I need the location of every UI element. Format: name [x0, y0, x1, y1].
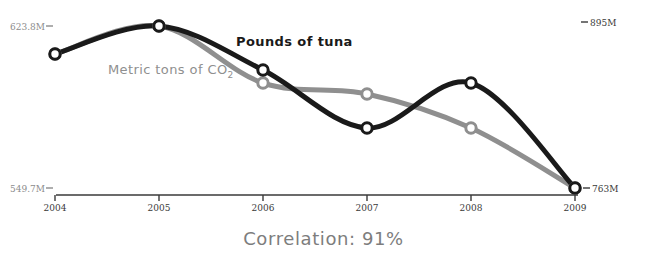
- data-point-marker: [466, 123, 476, 133]
- x-axis-ticks: [55, 195, 575, 201]
- x-axis-tick-label: 2006: [252, 203, 275, 213]
- series-line-pounds-of-tuna: [55, 26, 575, 188]
- right-axis-min-label: 763M: [592, 184, 618, 194]
- data-point-marker: [258, 78, 268, 88]
- series-annotation-metric-tons-co2-text: Metric tons of CO: [108, 62, 228, 77]
- right-axis-max-label: 895M: [590, 18, 616, 28]
- data-point-marker: [570, 183, 580, 193]
- data-point-marker: [362, 123, 372, 133]
- data-point-marker: [466, 78, 476, 88]
- data-point-marker: [362, 89, 372, 99]
- left-axis-min-label: 549.7M: [10, 184, 45, 194]
- correlation-chart: 623.8M 549.7M 895M 763M 2004200520062007…: [0, 0, 647, 270]
- left-axis-max-label: 623.8M: [10, 22, 45, 32]
- series-annotation-metric-tons-co2: Metric tons of CO2: [108, 62, 234, 80]
- series-annotation-co2-subscript: 2: [228, 70, 234, 80]
- x-axis-tick-label: 2007: [356, 203, 379, 213]
- data-point-marker: [258, 65, 268, 75]
- x-axis-tick-label: 2009: [564, 203, 587, 213]
- series-annotation-pounds-of-tuna: Pounds of tuna: [236, 34, 353, 49]
- data-point-marker: [50, 49, 60, 59]
- data-point-marker: [154, 21, 164, 31]
- correlation-caption: Correlation: 91%: [0, 228, 647, 249]
- x-axis-tick-label: 2005: [148, 203, 171, 213]
- x-axis-tick-label: 2008: [460, 203, 483, 213]
- x-axis-tick-label: 2004: [44, 203, 67, 213]
